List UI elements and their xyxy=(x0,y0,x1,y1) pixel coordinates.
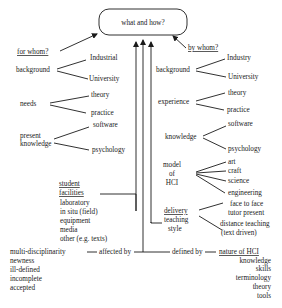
model-engineering: engineering xyxy=(228,189,262,197)
connector xyxy=(196,162,226,172)
connector xyxy=(50,96,89,103)
arrow-for-whom xyxy=(60,34,97,51)
student-facilities: student facilities laboratory in situ (f… xyxy=(59,180,136,243)
knowledge-label: knowledge xyxy=(165,133,197,141)
delivery-text-driven: (text driven) xyxy=(221,229,257,237)
arrow-by-whom xyxy=(173,36,186,48)
affected-item: accepted xyxy=(10,284,36,292)
connector xyxy=(203,138,226,149)
by-whom-title: by whom? xyxy=(188,44,218,52)
connector xyxy=(196,93,225,101)
connector xyxy=(199,203,223,210)
connector xyxy=(196,59,225,69)
delivery-title: delivery xyxy=(164,207,188,215)
connector xyxy=(50,105,86,113)
affected-item: newness xyxy=(10,257,35,265)
affected-by-label: affected by xyxy=(99,248,131,256)
model-craft: craft xyxy=(228,167,241,175)
connector xyxy=(203,126,226,136)
model-of-hci-label-2: of xyxy=(169,170,176,178)
nature-item: theory xyxy=(253,283,272,291)
model-of-hci-label-3: HCI xyxy=(166,179,179,187)
connector xyxy=(100,194,136,211)
right-background-industry: Industry xyxy=(227,54,251,62)
knowledge-software: software xyxy=(228,120,253,128)
delivery-face-to-face: face to face xyxy=(230,200,263,208)
delivery-label-2: teaching xyxy=(164,216,189,224)
facility-item: in situ (field) xyxy=(60,208,98,216)
student-facilities-title-2: facilities xyxy=(59,189,84,197)
experience-practice: practice xyxy=(227,106,250,114)
nature-of-hci-title: nature of HCI xyxy=(219,248,260,256)
model-of-hci-label-1: model xyxy=(163,161,181,169)
delivery: delivery teaching style face to face tut… xyxy=(151,200,270,237)
left-background-university: University xyxy=(89,75,120,83)
connector xyxy=(196,104,224,110)
needs-label: needs xyxy=(20,100,37,108)
right-branch: by whom? background Industry University … xyxy=(156,44,262,197)
model-art: art xyxy=(228,158,236,166)
facility-item: laboratory xyxy=(60,199,90,207)
nature-item: terminology xyxy=(236,274,272,282)
connector xyxy=(54,127,89,139)
experience-theory: theory xyxy=(228,89,247,97)
facility-item: media xyxy=(60,226,78,234)
student-facilities-title-1: student xyxy=(59,180,80,188)
connector xyxy=(151,222,162,223)
nature-item: skills xyxy=(256,265,271,273)
left-background-industrial: Industrial xyxy=(90,54,118,62)
experience-label: experience xyxy=(158,98,189,106)
root-node-label: what and how? xyxy=(121,19,165,27)
nature-item: knowledge xyxy=(239,257,271,265)
delivery-label-3: style xyxy=(168,225,182,233)
right-background-label: background xyxy=(156,66,190,74)
connector xyxy=(196,171,226,173)
delivery-tutor-present: tutor present xyxy=(228,209,264,217)
root-node: what and how? xyxy=(99,9,187,35)
facility-item: equipment xyxy=(60,217,90,225)
affected-item: incomplete xyxy=(10,275,42,283)
defined-by-label: defined by xyxy=(172,248,203,256)
facility-item: other (e.g. texts) xyxy=(60,235,108,243)
connector xyxy=(57,60,86,69)
affected-item: multi-disciplinarity xyxy=(10,248,66,256)
left-background-label: background xyxy=(16,66,50,74)
connector xyxy=(196,71,226,77)
affected-item: ill-defined xyxy=(10,266,40,274)
connector xyxy=(57,71,88,79)
connector xyxy=(199,216,222,230)
connector xyxy=(54,143,89,150)
present-knowledge-label-1: present xyxy=(20,132,41,140)
present-knowledge-label-2: knowledge xyxy=(20,140,52,148)
left-branch: for whom? background Industrial Universi… xyxy=(16,48,126,154)
affected-defined: multi-disciplinarity affected by defined… xyxy=(10,248,271,300)
hci-concept-diagram: what and how? for whom? background Indus… xyxy=(0,0,282,308)
for-whom-title: for whom? xyxy=(17,48,48,56)
needs-theory: theory xyxy=(91,91,110,99)
nature-item: tools xyxy=(257,292,271,300)
present-knowledge-software: software xyxy=(93,121,118,129)
needs-practice: practice xyxy=(91,109,114,117)
right-background-university: University xyxy=(228,73,259,81)
present-knowledge-psychology: psychology xyxy=(92,146,126,154)
model-science: science xyxy=(228,177,249,185)
delivery-distance-teaching: distance teaching xyxy=(220,220,270,228)
knowledge-psychology: psychology xyxy=(228,145,262,153)
